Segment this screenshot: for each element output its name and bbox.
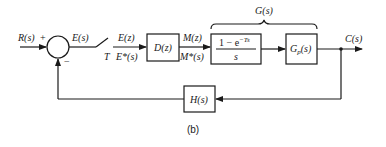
sampled-error-s-label: E*(s) <box>115 51 138 63</box>
sampler-switch <box>96 38 108 47</box>
figure-caption: (b) <box>187 124 199 135</box>
group-brace <box>211 20 317 29</box>
zoh-denominator: s <box>234 51 238 62</box>
minus-sign: − <box>64 56 70 67</box>
controller-label: D(z) <box>153 42 172 54</box>
summing-junction <box>47 36 69 58</box>
input-label: R(s) <box>17 32 35 44</box>
sampler-label: T <box>104 51 111 62</box>
output-label: C(s) <box>345 33 363 45</box>
error-label: E(s) <box>71 32 89 44</box>
feedback-label: H(s) <box>189 94 208 106</box>
block-diagram: R(s) + − E(s) T E(z) E*(s) D(z) M(z) M*(… <box>0 0 386 147</box>
controller-output-z-label: M(z) <box>182 32 203 44</box>
plus-sign: + <box>40 32 46 43</box>
sampled-error-z-label: E(z) <box>117 32 135 44</box>
controller-output-s-label: M*(s) <box>179 51 205 63</box>
group-label: G(s) <box>255 5 273 17</box>
